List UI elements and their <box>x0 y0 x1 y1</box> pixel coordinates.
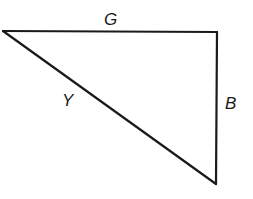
edge-b <box>216 32 217 184</box>
triangle-diagram: G B Y <box>0 0 253 199</box>
label-g: G <box>104 10 117 29</box>
label-b: B <box>225 94 236 113</box>
edge-g <box>3 31 217 32</box>
edge-y <box>3 31 216 184</box>
label-y: Y <box>62 91 75 110</box>
